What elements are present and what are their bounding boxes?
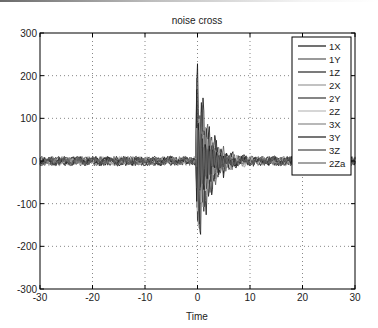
legend-label: 2X (329, 80, 341, 91)
legend-label: 3Z (329, 145, 340, 156)
y-tick-label: 0 (31, 156, 37, 167)
legend-label: 2Y (329, 93, 341, 104)
y-tick-label: 200 (20, 71, 37, 82)
x-tick-label: 0 (195, 292, 201, 303)
legend: 1X1Y1Z2X2Y2Z3X3Y3Z2Za (292, 37, 351, 175)
legend-label: 2Za (329, 158, 346, 169)
x-tick-label: -20 (85, 292, 100, 303)
x-tick-label: 10 (244, 292, 256, 303)
x-tick-label: 30 (349, 292, 361, 303)
chart-title: noise cross (172, 15, 223, 26)
legend-label: 2Z (329, 106, 340, 117)
y-tick-label: -300 (17, 284, 37, 295)
y-tick-label: -200 (17, 241, 37, 252)
legend-label: 1Z (329, 67, 340, 78)
legend-label: 1Y (329, 54, 341, 65)
legend-box (292, 37, 351, 175)
y-tick-label: -100 (17, 199, 37, 210)
x-axis-label: Time (186, 311, 208, 322)
y-tick-label: 300 (20, 28, 37, 39)
legend-label: 1X (329, 41, 341, 52)
y-tick-label: 100 (20, 113, 37, 124)
chart-figure: -30-20-1001020303002001000-100-200-300 n… (0, 0, 378, 328)
x-tick-label: 20 (297, 292, 309, 303)
x-tick-label: -10 (138, 292, 153, 303)
legend-label: 3Y (329, 132, 341, 143)
legend-label: 3X (329, 119, 341, 130)
